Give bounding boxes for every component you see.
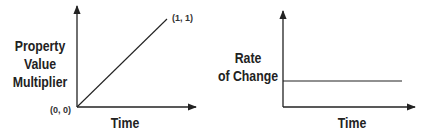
origin-label: (0, 0)	[50, 105, 71, 115]
right-ylabel-line-1: Rate	[217, 49, 279, 67]
left-ylabel-line-2: Value	[9, 55, 71, 73]
left-xlabel: Time	[105, 114, 146, 132]
right-ylabel-line-2: of Change	[217, 67, 279, 85]
left-ylabel: Property Value Multiplier	[9, 37, 71, 91]
right-chart	[283, 11, 415, 107]
right-xlabel: Time	[332, 114, 373, 132]
right-ylabel: Rate of Change	[217, 49, 279, 85]
left-data-line	[77, 19, 167, 107]
left-ylabel-line-3: Multiplier	[9, 73, 71, 91]
end-point-label: (1, 1)	[172, 13, 193, 23]
left-ylabel-line-1: Property	[9, 37, 71, 55]
